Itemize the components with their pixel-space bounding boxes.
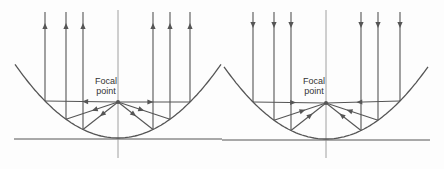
arrow-down-icon (397, 22, 402, 28)
focal-label-line2: point (304, 86, 324, 96)
arrow-down-icon (250, 22, 255, 28)
reflector-emitting: Focal point (14, 10, 222, 158)
arrow-down-icon (375, 22, 380, 28)
arrow-up-icon (187, 23, 192, 29)
focal-point-dot (116, 100, 120, 104)
arrow-inward-icon (347, 109, 354, 114)
focal-ray (253, 102, 326, 103)
arrow-up-icon (42, 23, 47, 29)
arrow-up-icon (80, 23, 85, 29)
focal-label-line1: Focal (95, 76, 117, 86)
arrow-outward-icon (138, 106, 145, 111)
arrow-down-icon (358, 22, 363, 28)
focal-ray (45, 101, 118, 102)
focal-label-line1: Focal (303, 76, 325, 86)
arrow-outward-icon (92, 106, 99, 111)
arrow-down-icon (288, 22, 293, 28)
focal-label-line2: point (96, 86, 116, 96)
arrow-inward-icon (299, 109, 306, 114)
arrow-up-icon (167, 23, 172, 29)
arrow-up-icon (63, 23, 68, 29)
focal-ray (326, 101, 400, 103)
reflector-collecting: Focal point (222, 10, 430, 158)
arrow-inward-icon (356, 99, 362, 104)
arrow-up-icon (150, 23, 155, 29)
arrow-down-icon (271, 22, 276, 28)
diagram-canvas: Focal point Focal point (0, 0, 444, 169)
focal-point-dot (324, 101, 328, 105)
parabolic-reflector-diagram: Focal point Focal point (0, 0, 444, 169)
